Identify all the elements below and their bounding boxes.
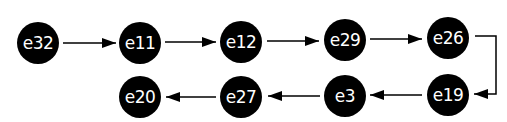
node-e11: e11 — [119, 22, 161, 64]
node-e3: e3 — [324, 75, 366, 117]
node-e26: e26 — [427, 17, 469, 59]
edge-e26-e19 — [474, 36, 496, 94]
node-e20: e20 — [119, 76, 161, 118]
node-e29: e29 — [324, 19, 366, 61]
node-e32: e32 — [17, 22, 59, 64]
node-e19: e19 — [427, 74, 469, 116]
node-e12: e12 — [220, 21, 262, 63]
node-e27: e27 — [220, 76, 262, 118]
